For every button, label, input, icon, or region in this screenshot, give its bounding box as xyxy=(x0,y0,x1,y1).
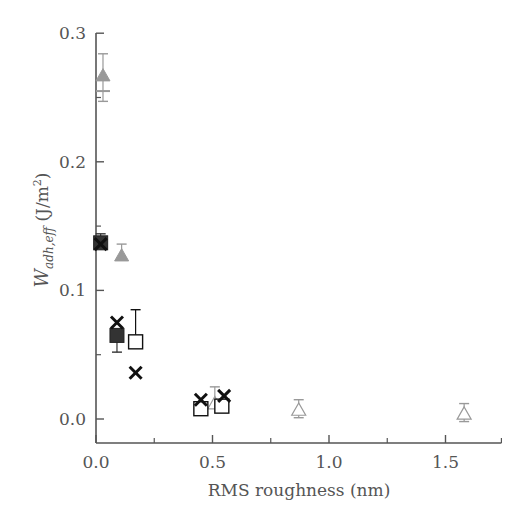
triangle-marker-open xyxy=(292,403,306,415)
y-tick-label: 0.2 xyxy=(59,152,86,172)
axes: 0.00.10.20.30.00.51.01.5 xyxy=(59,23,501,472)
square-marker-open xyxy=(129,335,143,349)
triangle-marker-filled xyxy=(115,249,129,261)
x-tick-label: 0.0 xyxy=(82,452,109,472)
x-tick-label: 0.5 xyxy=(199,452,226,472)
triangle-marker-filled xyxy=(96,69,110,81)
axis-labels: RMS roughness (nm) Wadh,eff (J/m2) xyxy=(31,173,390,500)
square-marker-open xyxy=(215,399,229,413)
x-tick-label: 1.0 xyxy=(315,452,342,472)
data-points xyxy=(94,54,471,422)
square-marker-filled xyxy=(110,328,124,342)
x-tick-label: 1.5 xyxy=(432,452,459,472)
triangle-marker-open xyxy=(457,407,471,419)
scatter-chart: 0.00.10.20.30.00.51.01.5 RMS roughness (… xyxy=(0,0,532,523)
y-tick-label: 0.0 xyxy=(59,409,86,429)
y-axis-title: Wadh,eff (J/m2) xyxy=(31,173,56,288)
x-axis-title: RMS roughness (nm) xyxy=(208,480,391,500)
y-tick-label: 0.1 xyxy=(59,280,86,300)
y-tick-label: 0.3 xyxy=(59,23,86,43)
